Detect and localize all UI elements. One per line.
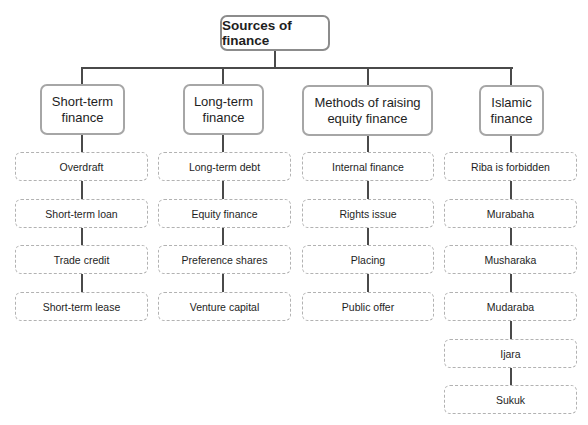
leaf-musharaka: Musharaka bbox=[444, 245, 577, 274]
header-label-line: Long-term bbox=[194, 94, 253, 109]
leaf-label: Musharaka bbox=[485, 254, 537, 266]
leaf-label: Short-term lease bbox=[43, 301, 121, 313]
header-label-line: finance bbox=[62, 110, 104, 125]
leaf-public-offer: Public offer bbox=[302, 292, 434, 321]
leaf-venture-capital: Venture capital bbox=[158, 292, 291, 321]
leaf-overdraft: Overdraft bbox=[15, 152, 148, 181]
leaf-trade-credit: Trade credit bbox=[15, 245, 148, 274]
leaf-label: Placing bbox=[351, 254, 385, 266]
leaf-murabaha: Murabaha bbox=[444, 199, 577, 228]
header-islamic-finance: Islamicfinance bbox=[479, 85, 544, 136]
root-stem bbox=[274, 51, 276, 68]
header-short-term-finance: Short-termfinance bbox=[40, 84, 125, 135]
leaf-label: Overdraft bbox=[60, 161, 104, 173]
leaf-preference-shares: Preference shares bbox=[158, 245, 291, 274]
leaf-label: Riba is forbidden bbox=[471, 161, 550, 173]
header-long-term-finance: Long-termfinance bbox=[183, 84, 264, 135]
leaf-sukuk: Sukuk bbox=[444, 385, 577, 414]
leaf-riba-is-forbidden: Riba is forbidden bbox=[444, 152, 577, 181]
leaf-label: Preference shares bbox=[182, 254, 268, 266]
leaf-label: Ijara bbox=[500, 348, 520, 360]
root-node-sources-of-finance: Sources of finance bbox=[220, 15, 330, 51]
leaf-equity-finance: Equity finance bbox=[158, 199, 291, 228]
header-label-line: equity finance bbox=[327, 111, 407, 126]
leaf-label: Murabaha bbox=[487, 208, 534, 220]
leaf-label: Internal finance bbox=[332, 161, 404, 173]
leaf-label: Rights issue bbox=[339, 208, 396, 220]
leaf-internal-finance: Internal finance bbox=[302, 152, 434, 181]
leaf-placing: Placing bbox=[302, 245, 434, 274]
header-label-line: finance bbox=[203, 110, 245, 125]
header-label-line: finance bbox=[491, 111, 533, 126]
root-label: Sources of finance bbox=[222, 18, 328, 48]
leaf-short-term-lease: Short-term lease bbox=[15, 292, 148, 321]
header-methods-of-raising-equity-finance: Methods of raisingequity finance bbox=[302, 85, 433, 136]
leaf-label: Short-term loan bbox=[45, 208, 117, 220]
header-label-line: Islamic bbox=[491, 95, 531, 110]
leaf-short-term-loan: Short-term loan bbox=[15, 199, 148, 228]
main-horizontal-connector bbox=[81, 67, 513, 69]
leaf-ijara: Ijara bbox=[444, 339, 577, 368]
leaf-label: Mudaraba bbox=[487, 301, 534, 313]
leaf-label: Long-term debt bbox=[189, 161, 260, 173]
leaf-label: Venture capital bbox=[190, 301, 259, 313]
header-label-line: Methods of raising bbox=[314, 95, 420, 110]
leaf-label: Public offer bbox=[342, 301, 394, 313]
leaf-mudaraba: Mudaraba bbox=[444, 292, 577, 321]
leaf-label: Sukuk bbox=[496, 394, 525, 406]
leaf-label: Trade credit bbox=[54, 254, 110, 266]
leaf-rights-issue: Rights issue bbox=[302, 199, 434, 228]
leaf-long-term-debt: Long-term debt bbox=[158, 152, 291, 181]
header-label-line: Short-term bbox=[52, 94, 113, 109]
leaf-label: Equity finance bbox=[192, 208, 258, 220]
